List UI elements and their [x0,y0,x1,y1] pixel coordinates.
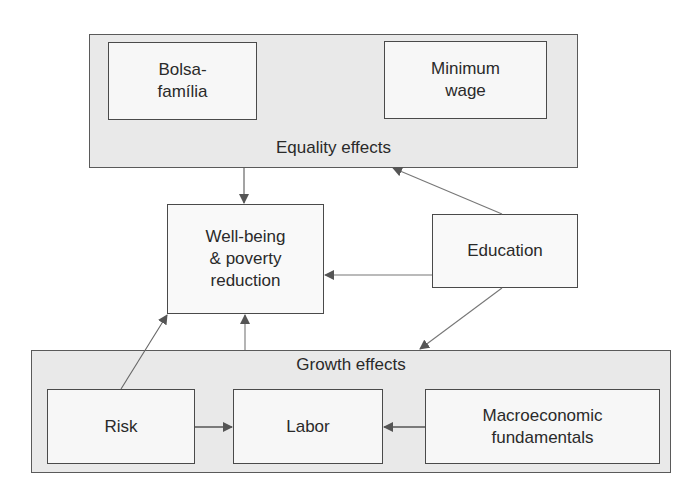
labor-box: Labor [233,389,383,464]
growth-effects-label: Growth effects [31,355,671,375]
wellbeing-poverty-reduction-box: Well-being & poverty reduction [167,204,324,314]
risk-box: Risk [47,389,195,464]
equality-effects-label: Equality effects [89,138,578,158]
macroeconomic-fundamentals-box: Macroeconomic fundamentals [425,389,660,464]
minimum-wage-box: Minimum wage [384,41,547,119]
arrow-education-to-equality [393,168,502,214]
education-box: Education [432,214,578,288]
bolsa-familia-box: Bolsa- família [108,42,257,120]
arrow-education-to-growth [420,288,502,349]
